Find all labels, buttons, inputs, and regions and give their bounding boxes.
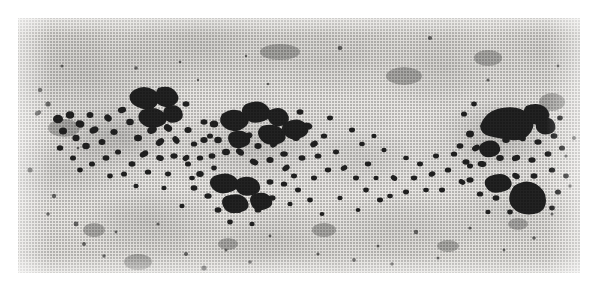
- photomicrograph-plate: [18, 18, 580, 273]
- halftone-screen-layer: [18, 18, 580, 273]
- figure-root: [0, 0, 597, 285]
